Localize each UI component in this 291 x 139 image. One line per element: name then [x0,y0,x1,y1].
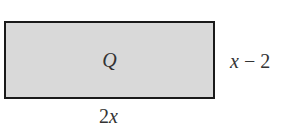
height-rest: − 2 [239,50,270,72]
height-variable: x [230,50,239,72]
width-variable: x [109,105,118,127]
rectangle-q: Q [4,21,215,99]
region-label: Q [6,49,213,72]
height-label: x − 2 [230,50,270,73]
width-coef: 2 [99,105,109,127]
width-label: 2x [99,105,118,128]
